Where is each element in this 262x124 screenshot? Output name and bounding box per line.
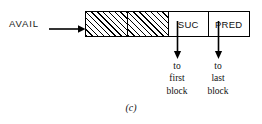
suc-down-arrow-icon bbox=[173, 21, 182, 60]
pred-target-caption: to last block bbox=[190, 60, 246, 97]
pred-down-arrow-icon bbox=[214, 21, 223, 60]
avail-label: AVAIL bbox=[9, 18, 39, 30]
hatched-cell-1 bbox=[86, 12, 127, 36]
pred-caption-line-1: to bbox=[190, 60, 246, 72]
figure-container: AVAIL SUC PRED to first blo bbox=[0, 0, 262, 124]
pred-caption-line-3: block bbox=[190, 85, 246, 97]
avail-node-box: SUC PRED bbox=[85, 11, 250, 37]
hatched-cell-2 bbox=[127, 12, 168, 36]
figure-caption: (c) bbox=[0, 102, 262, 113]
pred-caption-line-2: last bbox=[190, 72, 246, 84]
avail-pointer-arrow-icon bbox=[49, 20, 86, 30]
